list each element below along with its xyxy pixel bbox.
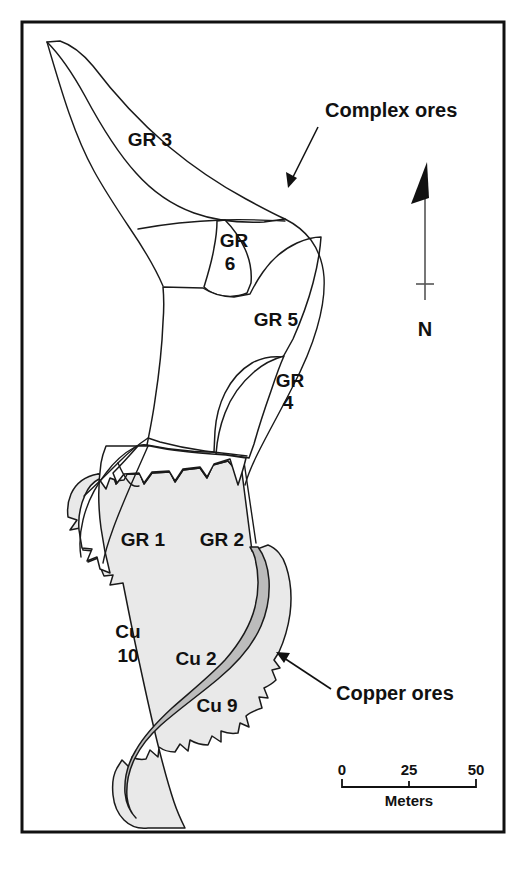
figure-root: Complex ores Copper ores N 0 25 50 Meter… <box>0 0 524 871</box>
annotation-complex-ores[interactable]: Complex ores <box>286 99 457 188</box>
copper-ore-body-group <box>68 455 291 828</box>
scale-bar-group: 0 25 50 Meters <box>338 761 485 809</box>
unit-label-gr2: GR 2 <box>200 529 244 550</box>
scale-tick-label-50: 50 <box>468 761 485 778</box>
unit-label-gr4-line2: 4 <box>283 392 294 413</box>
north-arrowhead-icon <box>411 162 429 204</box>
unit-label-gr3: GR 3 <box>128 129 172 150</box>
unit-label-gr6-line1: GR <box>220 230 249 251</box>
scale-tick-label-0: 0 <box>338 761 346 778</box>
copper-ores-label: Copper ores <box>336 682 454 704</box>
unit-label-cu2: Cu 2 <box>175 648 216 669</box>
unit-label-cu10-line1: Cu <box>115 621 140 642</box>
geological-map-canvas: Complex ores Copper ores N 0 25 50 Meter… <box>0 0 524 871</box>
scale-tick-label-25: 25 <box>401 761 418 778</box>
annotation-copper-ores[interactable]: Copper ores <box>276 652 454 704</box>
copper-ores-leader-line <box>281 656 331 689</box>
unit-label-cu9: Cu 9 <box>196 695 237 716</box>
complex-ores-arrowhead <box>286 172 297 188</box>
map-frame <box>22 22 504 832</box>
unit-label-gr1: GR 1 <box>121 529 166 550</box>
north-label: N <box>418 318 432 340</box>
unit-label-gr6-line2: 6 <box>225 253 236 274</box>
unit-label-cu10-line2: 10 <box>117 645 138 666</box>
scale-bar-caption: Meters <box>385 792 433 809</box>
complex-ores-leader-line <box>290 127 318 183</box>
unit-label-gr4-line1: GR <box>276 370 305 391</box>
north-arrow-group: N <box>411 162 434 340</box>
copper-outer-region[interactable] <box>68 457 291 828</box>
unit-label-gr5: GR 5 <box>254 309 299 330</box>
complex-ores-label: Complex ores <box>325 99 457 121</box>
